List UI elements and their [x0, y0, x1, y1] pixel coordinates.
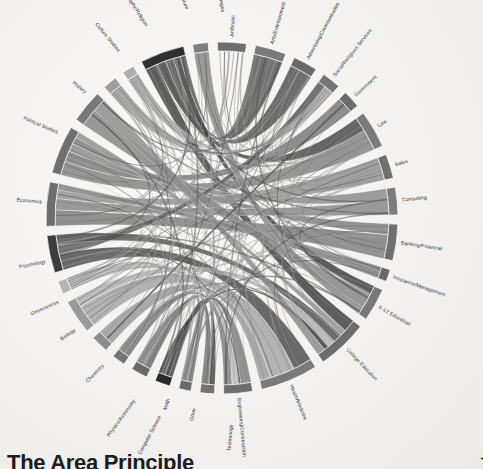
chord-arc-segment[interactable] [193, 43, 209, 54]
chord-diagram-figure: Art/MusicArts/EntertainmentAdvertising/C… [0, 0, 483, 469]
page-title: The Area Principle [7, 450, 194, 469]
chord-arc-segment[interactable] [200, 384, 215, 394]
chord-diagram-svg [0, 0, 483, 469]
chord-ribbon-group [55, 52, 389, 385]
chord-arc-segment[interactable] [217, 42, 246, 53]
